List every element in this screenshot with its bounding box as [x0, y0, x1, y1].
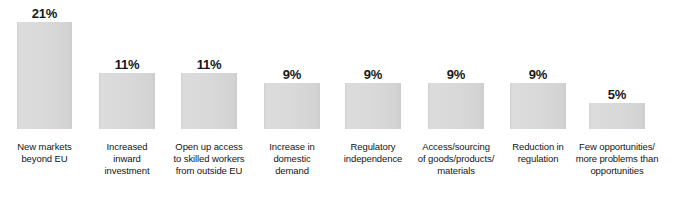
bar-value-label: 11%: [115, 57, 140, 72]
bar-group: 11%Increased inward investment: [99, 0, 155, 209]
bar-group: 9%Regulatory independence: [345, 0, 401, 209]
bar-group: 11%Open up access to skilled workers fro…: [181, 0, 237, 209]
bar-value-label: 9%: [447, 67, 465, 82]
bar-rect: [17, 22, 72, 129]
bar-plot-cell: 11%: [181, 0, 237, 129]
bar-rect: [181, 73, 237, 129]
bar-rect: [589, 103, 645, 129]
bar-group: 9%Increase in domestic demand: [264, 0, 320, 209]
bar-value-label: 21%: [32, 6, 57, 21]
bar-value-label: 11%: [197, 57, 222, 72]
bar-plot-cell: 9%: [510, 0, 566, 129]
bar-group: 9%Access/sourcing of goods/products/ mat…: [428, 0, 484, 209]
bar-value-label: 9%: [529, 67, 547, 82]
bar-group: 9%Reduction in regulation: [510, 0, 566, 209]
bar-category-label: Few opportunities/ more problems than op…: [562, 141, 672, 178]
bar-rect: [510, 83, 566, 129]
bar-plot-cell: 9%: [428, 0, 484, 129]
bar-chart: 21%New markets beyond EU11%Increased inw…: [0, 0, 677, 209]
bar-group: 5%Few opportunities/ more problems than …: [589, 0, 645, 209]
bar-value-label: 9%: [364, 67, 382, 82]
bar-group: 21%New markets beyond EU: [17, 0, 72, 209]
bar-value-label: 5%: [608, 87, 626, 102]
bar-rect: [428, 83, 484, 129]
bar-rect: [345, 83, 401, 129]
bar-plot-cell: 5%: [589, 0, 645, 129]
bar-rect: [264, 83, 320, 129]
bar-rect: [99, 73, 155, 129]
bar-plot-cell: 9%: [264, 0, 320, 129]
bar-plot-cell: 21%: [17, 0, 72, 129]
bar-plot-cell: 9%: [345, 0, 401, 129]
bar-value-label: 9%: [283, 67, 301, 82]
bar-plot-cell: 11%: [99, 0, 155, 129]
